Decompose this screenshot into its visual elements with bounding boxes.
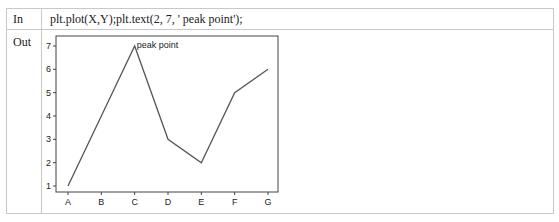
peak-point-annotation: peak point	[137, 40, 179, 50]
x-tick-label: G	[264, 197, 271, 207]
y-tick-label: 7	[46, 41, 51, 51]
x-tick-label: B	[98, 197, 104, 207]
y-tick-label: 4	[46, 111, 51, 121]
y-tick-label: 1	[46, 181, 51, 191]
x-tick-label: A	[65, 197, 71, 207]
y-tick-label: 3	[46, 134, 51, 144]
y-tick-label: 5	[46, 88, 51, 98]
line-chart: 1234567ABCDEFG peak point	[0, 0, 559, 222]
x-tick-label: C	[131, 197, 138, 207]
y-tick-label: 2	[46, 158, 51, 168]
data-line	[68, 46, 268, 186]
x-tick-label: E	[198, 197, 204, 207]
x-tick-label: D	[165, 197, 172, 207]
axes-frame	[56, 36, 278, 192]
x-tick-label: F	[232, 197, 238, 207]
y-tick-label: 6	[46, 64, 51, 74]
